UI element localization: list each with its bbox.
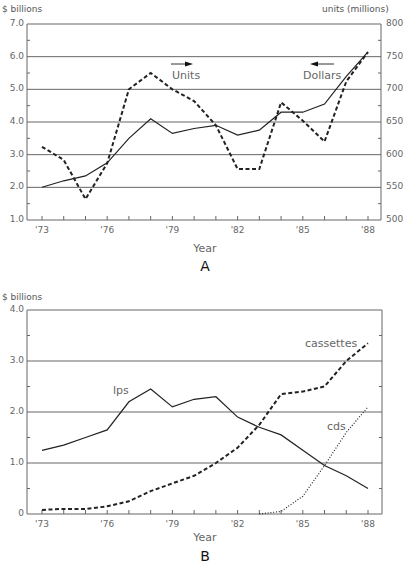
y-tick-label: 4.0 [2,116,24,126]
y2-tick-label: 800 [386,18,403,28]
y2-tick-label: 550 [386,181,403,191]
y-tick-label: 4.0 [2,304,24,314]
x-tick-label: '76 [95,225,119,235]
y2-tick-label: 500 [386,214,403,224]
chart-b-cds-label: cds [327,420,346,433]
arrow-right-icon-head [185,62,193,67]
x-tick-label: '88 [356,225,380,235]
chart-a-x-axis-label: Year [175,242,235,255]
chart-a-panel-label: A [190,258,220,274]
arrow-left-icon-head [310,62,318,67]
chart-b-cassettes-label: cassettes [305,337,357,350]
chart-a-dollars-annotation: Dollars [303,69,341,82]
y2-tick-label: 600 [386,149,403,159]
y-tick-label: 1.0 [2,214,24,224]
x-tick-label: '79 [160,519,184,529]
x-tick-label: '85 [291,519,315,529]
y2-tick-label: 750 [386,51,403,61]
chart-b-y-axis-label: $ billions [2,292,42,302]
x-tick-label: '79 [160,225,184,235]
y-tick-label: 1.0 [2,457,24,467]
chart-b-x-axis-label: Year [175,531,235,544]
y-tick-label: 5.0 [2,83,24,93]
x-tick-label: '73 [30,225,54,235]
x-tick-label: '82 [226,225,250,235]
chart-b: $ billions 4.03.02.01.00'73'76'79'82'85'… [0,290,410,577]
chart-b-panel-label: B [190,548,220,564]
y2-tick-label: 650 [386,116,403,126]
chart-a-y-axis-label: $ billions [2,4,42,14]
chart-a-y2-axis-label: units (millions) [322,4,389,14]
x-tick-label: '76 [95,519,119,529]
x-tick-label: '73 [30,519,54,529]
y-tick-label: 2.0 [2,406,24,416]
y-tick-label: 0 [2,508,24,518]
y2-tick-label: 700 [386,83,403,93]
y-tick-label: 7.0 [2,18,24,28]
chart-a-units-annotation: Units [172,69,200,82]
chart-b-lps-label: lps [113,384,129,397]
y-tick-label: 3.0 [2,149,24,159]
x-tick-label: '82 [226,519,250,529]
series-cds-line [259,407,368,514]
x-tick-label: '88 [356,519,380,529]
y-tick-label: 2.0 [2,181,24,191]
chart-a: $ billions units (millions) 7.06.05.04.0… [0,0,410,290]
y-tick-label: 6.0 [2,51,24,61]
y-tick-label: 3.0 [2,355,24,365]
series-cassettes-line [42,343,368,510]
x-tick-label: '85 [291,225,315,235]
